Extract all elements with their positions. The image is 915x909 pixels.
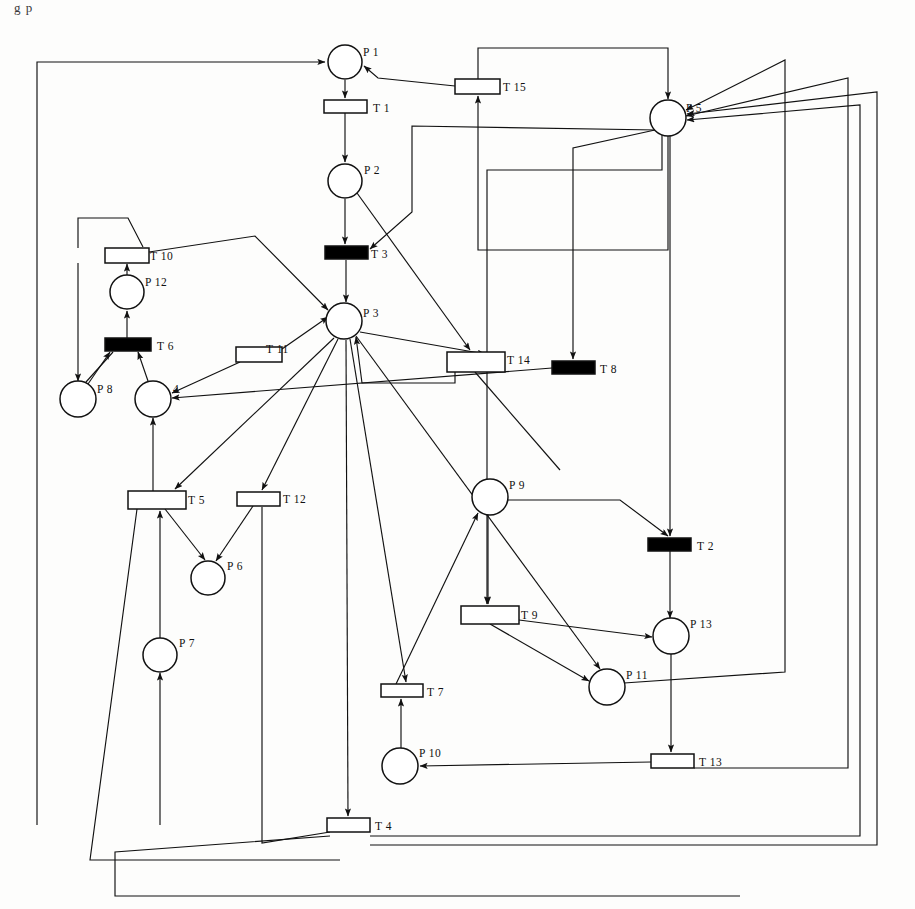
arc-P2-to-T14 xyxy=(357,193,470,350)
arc-T4-to-P5b xyxy=(370,92,877,845)
transition-label-T6: T 6 xyxy=(157,340,174,352)
place-P7[interactable] xyxy=(143,638,177,672)
arc-T14-to-T8 xyxy=(475,372,560,470)
arc-T10b-to-P12 xyxy=(78,218,143,248)
transition-T2[interactable] xyxy=(648,538,691,551)
page-header-fragment: g p xyxy=(14,0,33,16)
place-P3[interactable] xyxy=(326,303,362,339)
transition-label-T10: T 10 xyxy=(150,250,173,262)
place-P6[interactable] xyxy=(191,561,225,595)
arc-P11-to-P5 xyxy=(624,60,785,683)
arc-layer xyxy=(37,48,877,896)
transition-T12[interactable] xyxy=(237,492,280,506)
place-label-P13: P 13 xyxy=(690,618,712,630)
place-P4[interactable] xyxy=(135,381,171,417)
transition-label-T11: T 11 xyxy=(266,343,289,355)
place-P13[interactable] xyxy=(653,618,689,654)
transition-T7[interactable] xyxy=(381,684,423,697)
transition-T5[interactable] xyxy=(128,491,186,509)
place-label-P6: P 6 xyxy=(227,560,243,572)
transition-label-T9: T 9 xyxy=(521,609,538,621)
transition-label-T3: T 3 xyxy=(371,248,388,260)
transition-label-T14: T 14 xyxy=(507,354,530,366)
place-label-P5: P 5 xyxy=(686,102,702,114)
arc-P3-to-T7 xyxy=(350,339,406,682)
place-label-P3: P 3 xyxy=(363,307,379,319)
transition-label-T2: T 2 xyxy=(697,540,714,552)
transition-label-T1: T 1 xyxy=(373,102,390,114)
petri-net-figure: g p P 1P 2P 34P 5P 6P 7P 8P 9P 10P 11P 1… xyxy=(0,0,915,909)
arc-T5-to-T4 xyxy=(90,509,340,860)
arc-T10-to-P3 xyxy=(149,236,328,310)
arc-T11-to-P4 xyxy=(172,362,240,393)
place-label-P11: P 11 xyxy=(626,669,648,681)
transition-label-T12: T 12 xyxy=(283,493,306,505)
arc-T14-to-P3 xyxy=(356,337,455,383)
place-P12[interactable] xyxy=(110,275,144,309)
arc-T11-to-P3 xyxy=(282,317,328,349)
transition-T6[interactable] xyxy=(105,338,151,351)
arc-T12-to-T4 xyxy=(262,507,330,843)
place-P9[interactable] xyxy=(472,479,508,515)
arc-P4-to-T6 xyxy=(138,352,148,381)
transition-label-T15: T 15 xyxy=(503,81,526,93)
transition-T14[interactable] xyxy=(447,352,505,372)
arc-P5-to-T8 xyxy=(573,130,655,359)
arc-T9-to-P11 xyxy=(490,624,589,681)
transition-label-T13: T 13 xyxy=(699,756,722,768)
transition-label-T8: T 8 xyxy=(600,363,617,375)
petri-net-svg: P 1P 2P 34P 5P 6P 7P 8P 9P 10P 11P 12P 1… xyxy=(0,0,915,909)
place-P8[interactable] xyxy=(60,381,96,417)
place-P11[interactable] xyxy=(589,669,625,705)
transition-T8[interactable] xyxy=(552,361,595,374)
place-label-P9: P 9 xyxy=(509,479,525,491)
arc-P9-to-T2 xyxy=(508,500,668,536)
transition-T1[interactable] xyxy=(324,100,367,113)
place-label-P8: P 8 xyxy=(97,383,113,395)
arc-T9-to-P13 xyxy=(519,620,652,637)
arc-T5-to-P6 xyxy=(165,509,205,560)
place-P10[interactable] xyxy=(382,748,418,784)
transition-T9[interactable] xyxy=(461,606,519,624)
arc-P8-to-T6 xyxy=(88,352,110,384)
arc-T13-to-P10 xyxy=(420,762,651,766)
transition-T4[interactable] xyxy=(327,818,370,832)
transition-label-T7: T 7 xyxy=(427,686,444,698)
place-label-P12: P 12 xyxy=(145,276,167,288)
arc-P3-to-T14 xyxy=(360,332,485,354)
arc-T12-to-P6 xyxy=(216,506,253,561)
place-label-P1: P 1 xyxy=(363,46,379,58)
transition-label-T5: T 5 xyxy=(188,494,205,506)
arc-T7-to-P9 xyxy=(396,513,478,684)
arc-T4-to-P1 xyxy=(37,62,325,825)
place-label-P7: P 7 xyxy=(179,637,195,649)
transition-label-T4: T 4 xyxy=(375,820,392,832)
arc-P3-to-T4 xyxy=(346,340,348,816)
arc-T15-to-P1 xyxy=(364,66,455,86)
place-P2[interactable] xyxy=(328,164,362,198)
place-P1[interactable] xyxy=(328,45,362,79)
transition-T10[interactable] xyxy=(105,248,149,263)
transition-T13[interactable] xyxy=(651,754,694,768)
label-layer: P 1P 2P 34P 5P 6P 7P 8P 9P 10P 11P 12P 1… xyxy=(97,46,722,832)
place-label-P2: P 2 xyxy=(364,164,380,176)
transition-T3[interactable] xyxy=(325,246,368,259)
transition-T15[interactable] xyxy=(455,79,500,94)
place-label-P10: P 10 xyxy=(419,747,441,759)
arc-T4-to-P5 xyxy=(370,105,860,836)
place-P5[interactable] xyxy=(650,100,686,136)
arc-P5-to-T3 xyxy=(370,126,657,249)
arc-T13-to-P5 xyxy=(686,78,848,768)
place-label-P4: 4 xyxy=(173,383,179,395)
